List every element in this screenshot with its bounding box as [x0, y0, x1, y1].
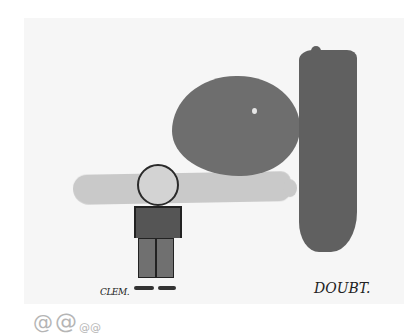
small-figure — [128, 164, 186, 294]
figure-signature-label: CLEM. — [100, 287, 129, 297]
figure-left-leg — [138, 238, 156, 278]
boulder-highlight — [252, 108, 257, 114]
figure-torso — [134, 206, 182, 238]
small-swirl-icon: @@ — [79, 321, 101, 334]
pillar-tip — [311, 46, 321, 56]
dark-boulder — [172, 76, 300, 176]
figure-head — [137, 164, 179, 206]
illustration-panel: CLEM. DOUBT. — [24, 18, 404, 304]
figure-right-leg — [156, 238, 174, 278]
doubt-label: DOUBT. — [314, 280, 371, 296]
swirl-icon: @ — [55, 309, 77, 334]
figure-left-foot — [134, 286, 154, 290]
doubt-pillar — [299, 50, 357, 252]
figure-right-foot — [158, 286, 176, 290]
band-end — [283, 179, 297, 197]
swirl-icon: @ — [33, 310, 53, 334]
swirl-ornament: @ @ @@ — [33, 309, 101, 334]
